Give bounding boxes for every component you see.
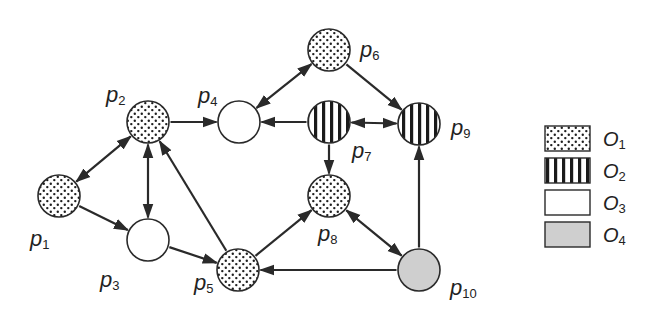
legend-swatch: [545, 126, 590, 151]
node-p6: p6: [308, 29, 379, 71]
edge-p7-p9: [351, 122, 396, 123]
node-label: p1: [29, 226, 49, 252]
node-circle: [308, 101, 350, 143]
node-p8: p8: [308, 175, 350, 247]
legend-swatch: [545, 222, 590, 247]
node-label: p3: [99, 267, 119, 293]
legend-item-o3: O3: [545, 190, 626, 216]
legend-item-o4: O4: [545, 222, 626, 248]
node-label: p4: [197, 83, 217, 109]
edge-p4-p6: [257, 64, 312, 108]
node-p4: p4: [197, 83, 260, 143]
edge-p3-p5: [169, 247, 216, 263]
edge-p5-p2: [160, 141, 227, 251]
node-p3: p3: [99, 219, 169, 293]
node-label: p10: [449, 275, 477, 301]
node-label: p9: [450, 115, 470, 141]
node-circle: [398, 249, 440, 291]
legend: O1O2O3O4: [545, 126, 626, 248]
node-circle: [308, 175, 350, 217]
node-circle: [217, 249, 259, 291]
edge-p5-p8: [255, 210, 311, 256]
legend-item-o2: O2: [545, 158, 626, 184]
node-label: p6: [359, 37, 379, 63]
node-label: p2: [105, 82, 125, 108]
legend-label: O4: [603, 224, 626, 248]
node-p7: p7: [308, 101, 371, 164]
legend-swatch: [545, 190, 590, 215]
legend-item-o1: O1: [545, 126, 626, 152]
legend-label: O1: [603, 128, 626, 152]
graph-diagram: p1p2p3p4p5p6p7p8p9p10 O1O2O3O4: [0, 0, 655, 317]
edge-p1-p2: [76, 136, 130, 181]
legend-label: O3: [603, 192, 626, 216]
node-p9: p9: [398, 103, 470, 145]
node-circle: [308, 29, 350, 71]
node-label: p7: [351, 138, 371, 164]
node-p2: p2: [105, 82, 169, 143]
node-label: p5: [193, 270, 213, 296]
edge-p1-p3: [79, 206, 128, 230]
node-p5: p5: [193, 249, 259, 296]
node-p1: p1: [29, 175, 80, 252]
node-p10: p10: [398, 249, 477, 301]
legend-swatch: [545, 158, 590, 183]
edge-p6-p9: [346, 64, 401, 109]
edge-p8-p10: [346, 210, 401, 255]
node-label: p8: [317, 221, 337, 247]
node-circle: [127, 101, 169, 143]
node-circle: [218, 101, 260, 143]
node-circle: [38, 175, 80, 217]
node-circle: [127, 219, 169, 261]
node-circle: [398, 103, 440, 145]
legend-label: O2: [603, 160, 626, 184]
